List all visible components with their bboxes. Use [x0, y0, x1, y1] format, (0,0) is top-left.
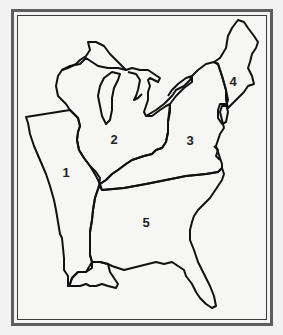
lake-huron [128, 72, 142, 100]
map-canvas [0, 0, 283, 335]
region-4-label: 4 [229, 74, 236, 89]
region-4-outline[interactable] [214, 20, 258, 108]
region-2-label: 2 [110, 132, 117, 147]
lake-michigan [98, 72, 120, 124]
region-1-outline[interactable] [26, 110, 100, 286]
region-3-label: 3 [186, 133, 193, 148]
region-5-label: 5 [142, 215, 149, 230]
region-1-label: 1 [62, 165, 69, 180]
region-3-outline[interactable] [100, 62, 228, 190]
